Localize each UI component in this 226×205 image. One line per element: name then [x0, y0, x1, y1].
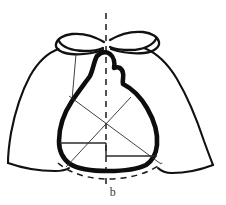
thorax-outlines: [8, 48, 213, 173]
left-lung-outline: [8, 49, 59, 163]
right-lung-base: [158, 165, 213, 173]
right-clavicle-inner: [110, 39, 156, 50]
figure-panel: b: [0, 0, 226, 205]
heart-silhouette: [59, 52, 157, 171]
panel-label: b: [0, 186, 226, 199]
chest-diagram: [0, 0, 226, 205]
left-clavicle-inner: [59, 41, 103, 51]
